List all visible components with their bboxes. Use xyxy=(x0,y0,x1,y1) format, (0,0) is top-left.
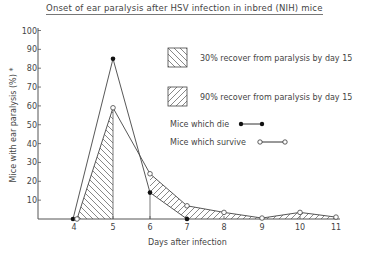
y-tick-label: 40 xyxy=(27,140,37,149)
x-tick-label: 11 xyxy=(331,223,341,232)
y-tick-label: 20 xyxy=(27,177,37,186)
point-survive xyxy=(334,215,339,220)
point-survive xyxy=(111,105,116,110)
x-tick-label: 8 xyxy=(221,223,226,232)
y-tick-label: 50 xyxy=(27,121,37,130)
point-survive xyxy=(298,210,303,215)
x-tick-label: 4 xyxy=(71,223,76,232)
legend-label-survive: Mice which survive xyxy=(170,138,246,147)
legend-swatch-30pct xyxy=(168,48,187,67)
point-survive xyxy=(260,216,265,221)
y-tick-label: 10 xyxy=(27,196,37,205)
y-tick-label: 30 xyxy=(27,158,37,167)
x-tick-label: 6 xyxy=(147,223,152,232)
legend-swatch-90pct xyxy=(168,87,187,106)
point-die xyxy=(111,56,116,61)
legend-label-die: Mice which die xyxy=(170,120,229,129)
y-tick-label: 100 xyxy=(22,27,37,36)
x-tick-label: 5 xyxy=(110,223,115,232)
point-die xyxy=(185,217,190,222)
legend-label-90pct: 90% recover from paralysis by day 15 xyxy=(200,93,352,102)
legend: 30% recover from paralysis by day 1590% … xyxy=(168,48,352,147)
y-tick-label: 70 xyxy=(27,83,37,92)
x-tick-label: 7 xyxy=(184,223,189,232)
legend-label-30pct: 30% recover from paralysis by day 15 xyxy=(200,54,352,63)
point-survive xyxy=(148,171,153,176)
x-tick-label: 10 xyxy=(295,223,305,232)
y-tick-label: 90 xyxy=(27,45,37,54)
y-tick-label: 80 xyxy=(27,64,37,73)
point-survive xyxy=(75,217,80,222)
point-survive xyxy=(185,204,190,209)
x-tick-label: 9 xyxy=(259,223,264,232)
x-axis-label: Days after infection xyxy=(148,238,227,247)
legend-die-marker-icon xyxy=(239,122,243,126)
chart-plot: 1020304050607080901004567891011Days afte… xyxy=(0,0,380,253)
point-survive xyxy=(222,210,227,215)
point-die xyxy=(148,190,153,195)
y-tick-label: 60 xyxy=(27,102,37,111)
legend-survive-marker-icon xyxy=(258,140,262,144)
y-axis-label: Mice with ear paralysis (%) * xyxy=(9,68,18,183)
